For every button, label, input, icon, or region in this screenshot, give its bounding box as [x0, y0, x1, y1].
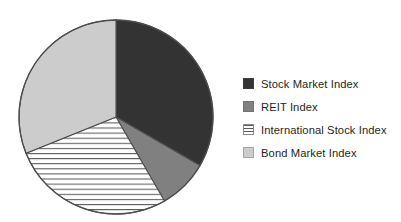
reit-index-swatch [243, 101, 254, 112]
legend-item-international-stock-index[interactable]: International Stock Index [243, 118, 401, 141]
legend-item-reit-index[interactable]: REIT Index [243, 95, 401, 118]
legend-item-stock-market-index[interactable]: Stock Market Index [243, 72, 401, 95]
legend-label-international-stock-index: International Stock Index [261, 124, 387, 136]
legend-item-bond-market-index[interactable]: Bond Market Index [243, 141, 401, 164]
chart-legend: Stock Market Index REIT Index Internatio… [243, 72, 401, 164]
pie-slices [19, 20, 213, 214]
stock-market-index-swatch [243, 78, 254, 89]
pie-chart-graphic [0, 0, 232, 222]
international-stock-index-swatch [243, 124, 254, 135]
legend-label-stock-market-index: Stock Market Index [261, 78, 359, 90]
bond-market-index-swatch [243, 147, 254, 158]
pie-chart-figure: Stock Market Index REIT Index Internatio… [0, 0, 401, 222]
legend-label-bond-market-index: Bond Market Index [261, 147, 357, 159]
legend-label-reit-index: REIT Index [261, 101, 318, 113]
